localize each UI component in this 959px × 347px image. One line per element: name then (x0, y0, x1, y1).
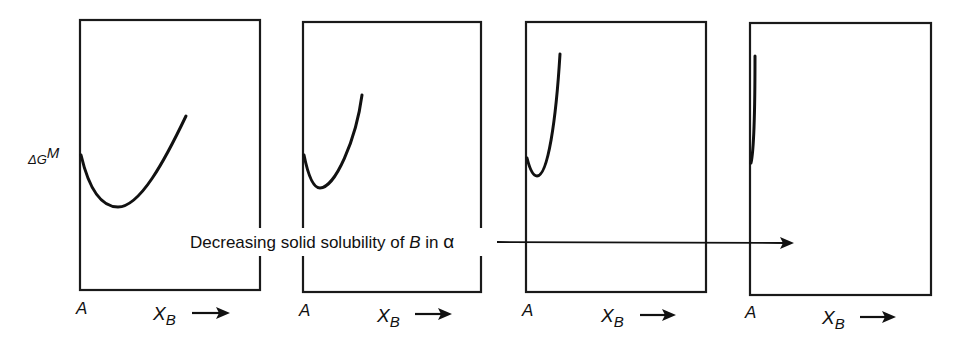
panel-3-origin-label: A (521, 301, 533, 320)
solubility-label: Decreasing solid solubility of B in α (190, 231, 454, 252)
panel-1-origin-label: A (75, 299, 87, 318)
panel-3-x-axis-label: XB (600, 305, 676, 330)
panel-2-curve (304, 95, 362, 188)
svg-text:XB: XB (821, 307, 845, 332)
svg-text:XB: XB (152, 303, 176, 328)
svg-text:XB: XB (600, 305, 624, 330)
panel-1-curve (81, 116, 186, 207)
panel-2-x-axis-label: XB (376, 305, 452, 330)
panel-4-curve (751, 56, 755, 163)
panel-4-x-axis-label: XB (821, 307, 896, 332)
panel-2-origin-label: A (298, 301, 310, 320)
panel-3 (526, 22, 706, 292)
panel-4-frame (750, 23, 931, 295)
panel-3-frame (526, 22, 706, 292)
free-energy-diagram: Decreasing solid solubility of B in α ΔG… (0, 0, 959, 347)
panel-4-origin-label: A (744, 303, 756, 322)
panel-1-x-axis-label: XB (152, 303, 230, 328)
panel-4 (750, 23, 931, 295)
panel-3-curve (527, 54, 560, 176)
svg-text:XB: XB (376, 305, 400, 330)
y-axis-label: ΔGM (27, 144, 60, 167)
